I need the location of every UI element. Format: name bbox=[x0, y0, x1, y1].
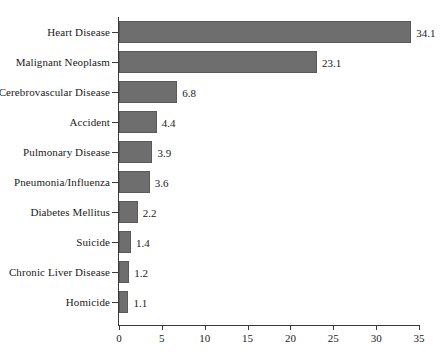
x-axis-tick bbox=[205, 325, 206, 330]
x-axis-tick bbox=[119, 325, 120, 330]
x-axis-tick bbox=[248, 325, 249, 330]
bar bbox=[119, 291, 128, 313]
x-axis-line bbox=[118, 325, 420, 326]
y-axis-tick bbox=[112, 182, 118, 183]
bar bbox=[119, 81, 177, 103]
y-axis-tick bbox=[112, 272, 118, 273]
category-label: Cerebrovascular Disease bbox=[0, 77, 110, 107]
bar-chart: Heart Disease34.1Malignant Neoplasm23.1C… bbox=[0, 0, 442, 354]
bar-row: Homicide1.1 bbox=[0, 287, 442, 317]
x-axis-tick-label: 10 bbox=[199, 332, 210, 344]
category-label: Chronic Liver Disease bbox=[9, 257, 110, 287]
category-label: Malignant Neoplasm bbox=[16, 47, 110, 77]
bar-value-label: 2.2 bbox=[143, 197, 157, 227]
bar-row: Pneumonia/Influenza3.6 bbox=[0, 167, 442, 197]
y-axis-tick bbox=[112, 302, 118, 303]
x-axis-tick bbox=[162, 325, 163, 330]
y-axis-tick bbox=[112, 32, 118, 33]
bar-value-label: 6.8 bbox=[182, 77, 196, 107]
bar bbox=[119, 51, 317, 73]
bar-value-label: 1.2 bbox=[134, 257, 148, 287]
x-axis-tick-label: 30 bbox=[371, 332, 382, 344]
category-label: Pulmonary Disease bbox=[23, 137, 110, 167]
x-axis-tick bbox=[290, 325, 291, 330]
x-axis-tick-label: 25 bbox=[328, 332, 339, 344]
category-label: Pneumonia/Influenza bbox=[14, 167, 110, 197]
bar bbox=[119, 141, 152, 163]
bar-row: Diabetes Mellitus2.2 bbox=[0, 197, 442, 227]
bar-value-label: 4.4 bbox=[162, 107, 176, 137]
x-axis-tick bbox=[333, 325, 334, 330]
bar-row: Pulmonary Disease3.9 bbox=[0, 137, 442, 167]
bar-value-label: 23.1 bbox=[322, 47, 341, 77]
plot-area: Heart Disease34.1Malignant Neoplasm23.1C… bbox=[0, 0, 442, 354]
y-axis-tick bbox=[112, 122, 118, 123]
y-axis-tick bbox=[112, 212, 118, 213]
category-label: Heart Disease bbox=[47, 17, 110, 47]
category-label: Diabetes Mellitus bbox=[30, 197, 110, 227]
x-axis-tick-label: 0 bbox=[116, 332, 122, 344]
bar-row: Heart Disease34.1 bbox=[0, 17, 442, 47]
bar-row: Suicide1.4 bbox=[0, 227, 442, 257]
bar-value-label: 34.1 bbox=[416, 17, 435, 47]
x-axis-tick-label: 5 bbox=[159, 332, 165, 344]
bar bbox=[119, 201, 138, 223]
x-axis-tick bbox=[419, 325, 420, 330]
category-label: Suicide bbox=[76, 227, 110, 257]
y-axis-tick bbox=[112, 152, 118, 153]
bar-value-label: 1.4 bbox=[136, 227, 150, 257]
bar bbox=[119, 261, 129, 283]
x-axis-tick bbox=[376, 325, 377, 330]
bar bbox=[119, 231, 131, 253]
y-axis-tick bbox=[112, 242, 118, 243]
bar-value-label: 1.1 bbox=[133, 287, 147, 317]
bar bbox=[119, 21, 411, 43]
x-axis-tick-label: 20 bbox=[285, 332, 296, 344]
x-axis-tick-label: 15 bbox=[242, 332, 253, 344]
bar bbox=[119, 171, 150, 193]
bar-row: Chronic Liver Disease1.2 bbox=[0, 257, 442, 287]
bar-row: Cerebrovascular Disease6.8 bbox=[0, 77, 442, 107]
bar-value-label: 3.9 bbox=[157, 137, 171, 167]
bar-value-label: 3.6 bbox=[155, 167, 169, 197]
category-label: Homicide bbox=[66, 287, 110, 317]
category-label: Accident bbox=[69, 107, 110, 137]
x-axis-tick-label: 35 bbox=[414, 332, 425, 344]
y-axis-tick bbox=[112, 92, 118, 93]
bar bbox=[119, 111, 157, 133]
y-axis-tick bbox=[112, 62, 118, 63]
bar-row: Accident4.4 bbox=[0, 107, 442, 137]
bar-row: Malignant Neoplasm23.1 bbox=[0, 47, 442, 77]
